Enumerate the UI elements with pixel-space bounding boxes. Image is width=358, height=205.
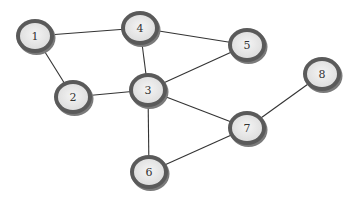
node-2: 2: [54, 80, 94, 116]
node-label: 5: [244, 39, 251, 52]
node-label: 7: [244, 122, 251, 135]
nodes-layer: 12345678: [16, 11, 343, 191]
node-6: 6: [130, 155, 170, 191]
node-label: 2: [70, 91, 77, 104]
node-7: 7: [228, 111, 268, 147]
graph-diagram: 12345678: [0, 0, 358, 205]
node-label: 8: [319, 68, 326, 81]
node-5: 5: [228, 28, 268, 64]
node-3: 3: [129, 73, 169, 109]
node-4: 4: [121, 11, 161, 47]
node-label: 3: [145, 84, 152, 97]
node-1: 1: [16, 19, 56, 55]
node-label: 4: [137, 22, 144, 35]
node-8: 8: [303, 57, 343, 93]
node-label: 6: [146, 166, 153, 179]
node-label: 1: [32, 30, 39, 43]
